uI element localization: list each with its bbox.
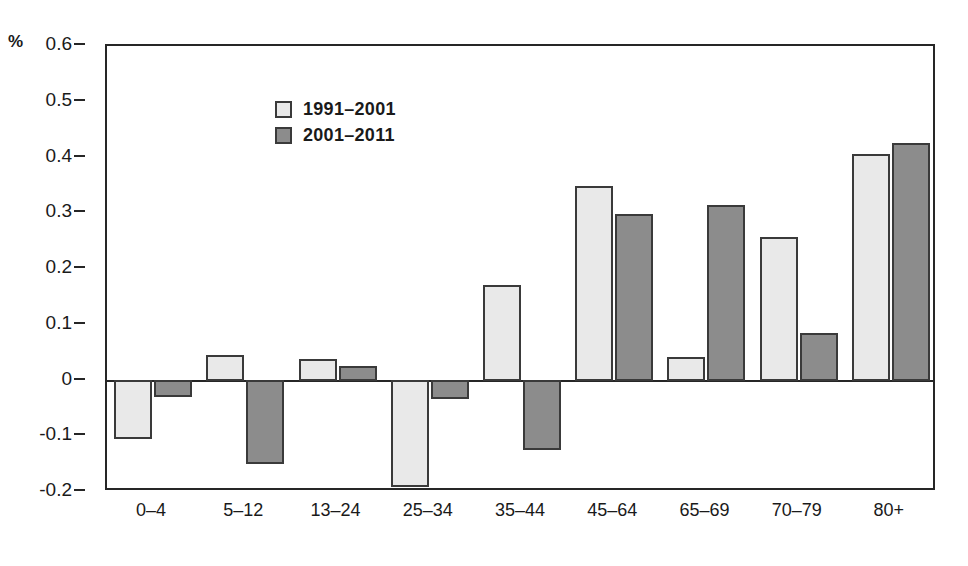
y-axis: 0.60.50.40.30.20.10-0.1-0.2: [0, 0, 105, 566]
y-axis-tick-label: 0.1: [46, 312, 72, 334]
bar: [391, 380, 429, 487]
chart-container: % 0.60.50.40.30.20.10-0.1-0.2 1991–2001 …: [0, 0, 968, 566]
legend-label: 1991–2001: [303, 99, 396, 120]
x-axis-tick-label: 65–69: [679, 500, 729, 521]
y-axis-tick-label: 0.6: [46, 33, 72, 55]
bar: [615, 214, 653, 381]
x-axis-tick-label: 80+: [874, 500, 905, 521]
y-axis-tick-label: 0.4: [46, 145, 72, 167]
bar: [339, 366, 377, 381]
y-axis-tick-mark: [74, 322, 85, 324]
bar: [483, 285, 521, 382]
bar: [667, 357, 705, 382]
bar: [206, 355, 244, 381]
bar: [800, 333, 838, 382]
x-axis-tick-label: 35–44: [495, 500, 545, 521]
x-axis-tick-label: 70–79: [772, 500, 822, 521]
y-axis-tick-label: 0: [61, 368, 72, 390]
legend-swatch-icon: [275, 127, 292, 144]
legend-item: 1991–2001: [275, 96, 396, 122]
bar: [431, 380, 469, 399]
bar: [892, 143, 930, 381]
y-axis-tick-mark: [74, 266, 85, 268]
y-axis-tick-mark: [74, 99, 85, 101]
y-axis-tick-mark: [74, 155, 85, 157]
bar: [852, 154, 890, 381]
y-axis-tick-mark: [74, 489, 85, 491]
y-axis-tick-mark: [74, 433, 85, 435]
bar: [246, 380, 284, 464]
x-axis-tick-label: 13–24: [311, 500, 361, 521]
legend-label: 2001–2011: [303, 125, 395, 146]
y-axis-tick-label: 0.5: [46, 89, 72, 111]
y-axis-tick-label: 0.3: [46, 200, 72, 222]
bar: [575, 186, 613, 382]
bar: [154, 380, 192, 397]
bar: [299, 359, 337, 381]
y-axis-tick-mark: [74, 210, 85, 212]
y-axis-tick-label: 0.2: [46, 256, 72, 278]
legend-swatch-icon: [275, 101, 292, 118]
plot-area: 1991–2001 2001–2011: [105, 44, 935, 490]
x-axis-tick-label: 45–64: [587, 500, 637, 521]
x-axis-tick-label: 0–4: [136, 500, 166, 521]
y-axis-tick-mark: [74, 378, 85, 380]
x-axis: 0–45–1213–2425–3435–4445–6465–6970–7980+: [105, 500, 935, 540]
bar: [707, 205, 745, 381]
x-axis-tick-label: 5–12: [223, 500, 263, 521]
bar: [114, 380, 152, 440]
bar: [760, 237, 798, 381]
legend-item: 2001–2011: [275, 122, 396, 148]
y-axis-tick-label: -0.2: [39, 479, 72, 501]
y-axis-tick-mark: [74, 43, 85, 45]
bar: [523, 380, 561, 450]
legend: 1991–2001 2001–2011: [275, 96, 396, 148]
x-axis-tick-label: 25–34: [403, 500, 453, 521]
y-axis-tick-label: -0.1: [39, 423, 72, 445]
